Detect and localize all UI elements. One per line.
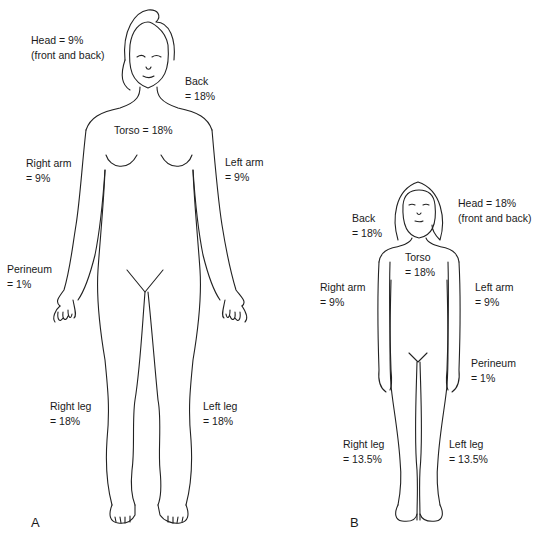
child-right-arm-label-name: Right arm	[320, 280, 366, 295]
child-perineum-label-name: Perineum	[471, 356, 516, 371]
adult-left-arm-label-name: Left arm	[225, 155, 264, 170]
child-head-label-note: (front and back)	[458, 211, 532, 226]
adult-back-label-value: = 18%	[185, 89, 215, 104]
adult-right-leg-label-value: = 18%	[50, 414, 91, 429]
adult-left-arm-label-value: = 9%	[225, 170, 264, 185]
child-torso-label: Torso = 18%	[405, 250, 435, 280]
child-head-label: Head = 18% (front and back)	[458, 196, 532, 226]
child-left-leg-label-name: Left leg	[449, 437, 488, 452]
panel-label-b: B	[350, 515, 359, 530]
adult-left-leg-label-name: Left leg	[203, 399, 237, 414]
child-perineum-label-value: = 1%	[471, 371, 516, 386]
adult-left-leg-label-value: = 18%	[203, 414, 237, 429]
adult-left-arm-label: Left arm = 9%	[225, 155, 264, 185]
adult-body-outline	[54, 10, 247, 523]
adult-right-arm-label-value: = 9%	[26, 171, 72, 186]
panel-label-a: A	[31, 515, 40, 530]
child-left-leg-label: Left leg = 13.5%	[449, 437, 488, 467]
child-right-arm-label: Right arm = 9%	[320, 280, 366, 310]
adult-perineum-label-value: = 1%	[7, 277, 52, 292]
adult-perineum-label: Perineum = 1%	[7, 262, 52, 292]
child-left-arm-label-name: Left arm	[475, 280, 514, 295]
child-left-leg-label-value: = 13.5%	[449, 452, 488, 467]
adult-torso-label: Torso = 18%	[114, 123, 173, 138]
child-back-label-value: = 18%	[352, 226, 382, 241]
child-right-leg-label-value: = 13.5%	[343, 452, 384, 467]
child-torso-label-value: = 18%	[405, 265, 435, 280]
adult-right-arm-label-name: Right arm	[26, 156, 72, 171]
child-left-arm-label-value: = 9%	[475, 295, 514, 310]
adult-back-label: Back = 18%	[185, 74, 215, 104]
child-right-leg-label: Right leg = 13.5%	[343, 437, 384, 467]
adult-right-leg-label-name: Right leg	[50, 399, 91, 414]
adult-right-leg-label: Right leg = 18%	[50, 399, 91, 429]
adult-head-label-name: Head = 9%	[31, 33, 105, 48]
adult-left-leg-label: Left leg = 18%	[203, 399, 237, 429]
child-head-label-name: Head = 18%	[458, 196, 532, 211]
child-back-label-name: Back	[352, 211, 382, 226]
adult-right-arm-label: Right arm = 9%	[26, 156, 72, 186]
adult-torso-label-name: Torso = 18%	[114, 123, 173, 138]
adult-head-label-note: (front and back)	[31, 48, 105, 63]
child-right-leg-label-name: Right leg	[343, 437, 384, 452]
adult-back-label-name: Back	[185, 74, 215, 89]
adult-head-label: Head = 9% (front and back)	[31, 33, 105, 63]
child-left-arm-label: Left arm = 9%	[475, 280, 514, 310]
child-back-label: Back = 18%	[352, 211, 382, 241]
child-perineum-label: Perineum = 1%	[471, 356, 516, 386]
child-body-outline	[378, 182, 460, 521]
child-torso-label-name: Torso	[405, 250, 435, 265]
adult-perineum-label-name: Perineum	[7, 262, 52, 277]
child-right-arm-label-value: = 9%	[320, 295, 366, 310]
